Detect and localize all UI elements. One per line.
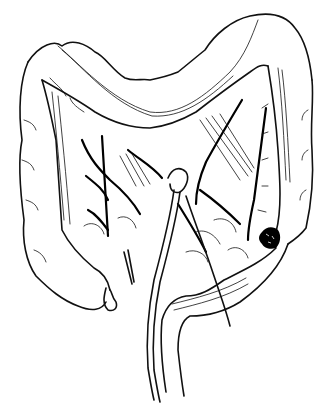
ascending-colon xyxy=(20,62,117,311)
colon-drawing xyxy=(0,0,327,408)
sigmoid-colon xyxy=(161,244,288,396)
descending-colon xyxy=(268,66,313,244)
lesion-mass xyxy=(259,227,280,249)
retractor-needle xyxy=(124,250,134,284)
colon-illustration: Black-and-white line illustration of the… xyxy=(0,0,327,408)
mesenteric-vessels xyxy=(82,100,268,262)
